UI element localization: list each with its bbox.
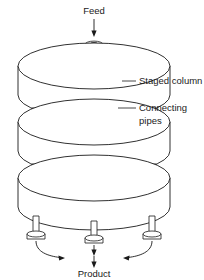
outlet-flange-right-disc — [143, 231, 161, 237]
outlet-flange-center-disc — [85, 235, 103, 241]
outlet-flange-left-disc — [27, 231, 45, 237]
staged-column-label: Staged column — [139, 75, 202, 86]
feed-arrow-head — [91, 31, 96, 38]
product-flow-arrows — [36, 241, 152, 268]
connecting-pipes-label-line1: Connecting — [139, 102, 187, 113]
feed-label: Feed — [83, 5, 105, 16]
product-arrow-center-head — [91, 250, 96, 257]
product-label: Product — [78, 268, 111, 279]
product-arrow-right-head — [123, 256, 130, 261]
product-arrow-right-curve — [128, 241, 152, 258]
stage-bottom — [18, 155, 170, 230]
product-arrow-left-curve — [36, 241, 60, 258]
diagram-canvas: Feed — [0, 0, 204, 280]
connecting-pipes-label-line2: pipes — [139, 115, 162, 126]
product-arrow-left-head — [58, 256, 65, 261]
stage-bottom-head — [18, 155, 170, 201]
staged-column-diagram: Feed — [0, 0, 204, 280]
